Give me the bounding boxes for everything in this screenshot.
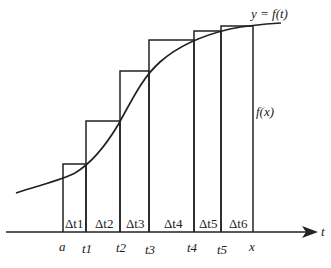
curve-label: y = f(t) bbox=[249, 6, 288, 21]
tick-label: a bbox=[59, 239, 66, 254]
tick-label: t1 bbox=[82, 241, 92, 256]
rect-5 bbox=[194, 31, 221, 232]
rect-6 bbox=[221, 26, 253, 232]
rectangles bbox=[63, 26, 253, 232]
fx-label: f(x) bbox=[256, 104, 274, 119]
tick-label: x bbox=[248, 239, 255, 254]
delta-label: Δt5 bbox=[199, 216, 217, 231]
tick-label: t4 bbox=[187, 240, 198, 255]
delta-label: Δt3 bbox=[126, 216, 144, 231]
delta-label: Δt1 bbox=[65, 216, 83, 231]
delta-label: Δt2 bbox=[95, 216, 113, 231]
delta-label: Δt6 bbox=[229, 216, 248, 231]
riemann-sum-diagram: y = f(t) f(x) t Δt1 Δt2 Δt3 Δt4 Δt5 Δt6 … bbox=[0, 0, 331, 268]
rect-4 bbox=[149, 40, 194, 232]
tick-label: t2 bbox=[116, 240, 127, 255]
tick-label: t5 bbox=[217, 242, 228, 257]
tick-label: t3 bbox=[145, 242, 156, 257]
axis-label: t bbox=[321, 224, 325, 239]
delta-label: Δt4 bbox=[164, 216, 183, 231]
